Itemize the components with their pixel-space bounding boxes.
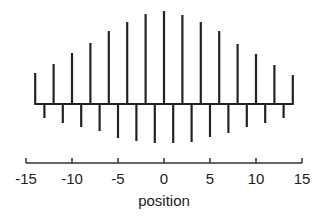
x-axis	[26, 158, 302, 163]
bar-group	[35, 11, 293, 143]
x-tick-label: -15	[15, 170, 37, 187]
x-tick-label: -5	[111, 170, 124, 187]
stick-plot	[0, 0, 323, 220]
x-tick-label: 5	[206, 170, 214, 187]
x-tick-label: 0	[160, 170, 168, 187]
x-axis-label: position	[138, 192, 190, 209]
x-tick-label: 15	[294, 170, 311, 187]
x-tick-label: 10	[248, 170, 265, 187]
x-tick-label: -10	[61, 170, 83, 187]
